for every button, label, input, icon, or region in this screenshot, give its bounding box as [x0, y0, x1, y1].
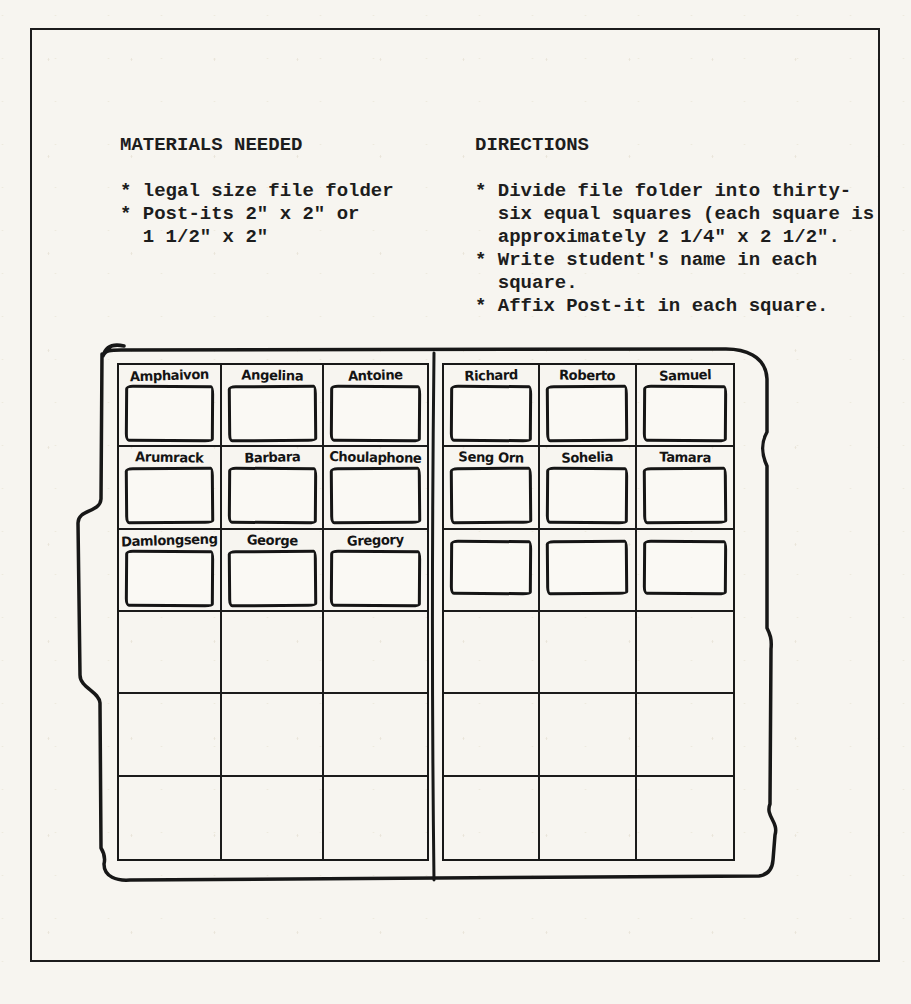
student-name: Seng Orn: [445, 446, 537, 468]
student-name: Sohelia: [541, 446, 633, 469]
grid-cell: [324, 612, 427, 694]
grid-cell: Damlongseng: [119, 530, 222, 612]
folder-right-panel: RichardRobertoSamuelSeng OrnSoheliaTamar…: [442, 363, 735, 861]
student-name: Amphaivon: [120, 364, 218, 387]
grid-cell: Arumrack: [119, 447, 222, 529]
student-name: Arumrack: [120, 446, 218, 468]
grid-cell: Angelina: [222, 365, 325, 447]
grid-cell: [222, 694, 325, 776]
post-it-note: [330, 385, 421, 443]
post-it-note: [125, 467, 214, 525]
grid-cell: [119, 612, 222, 694]
grid-cell: Samuel: [637, 365, 733, 447]
student-name: Antoine: [326, 364, 426, 387]
grid-cell: Antoine: [324, 365, 427, 447]
grid-cell: [324, 694, 427, 776]
post-it-note: [642, 539, 727, 595]
directions-section: DIRECTIONS * Divide file folder into thi…: [475, 134, 874, 318]
student-name: Samuel: [638, 364, 732, 387]
file-folder-illustration: AmphaivonAngelinaAntoineArumrackBarbaraC…: [72, 340, 787, 885]
page-border-frame: MATERIALS NEEDED * legal size file folde…: [30, 28, 880, 962]
grid-cell: [444, 694, 540, 776]
student-name: Gregory: [326, 528, 426, 551]
grid-cell: George: [222, 530, 325, 612]
grid-cell: [540, 612, 636, 694]
grid-cell: Choulaphone: [324, 447, 427, 529]
grid-cell: Richard: [444, 365, 540, 447]
grid-cell: Tamara: [637, 447, 733, 529]
grid-cell: [540, 530, 636, 612]
grid-cell: [637, 777, 733, 859]
grid-cell: [119, 777, 222, 859]
post-it-note: [330, 549, 421, 607]
post-it-note: [125, 549, 214, 607]
grid-cell: Seng Orn: [444, 447, 540, 529]
grid-cell: Roberto: [540, 365, 636, 447]
post-it-note: [450, 539, 533, 595]
student-name: Roberto: [542, 364, 634, 386]
grid-cell: [444, 777, 540, 859]
student-name: Barbara: [223, 446, 321, 469]
post-it-note: [642, 385, 727, 443]
materials-section: MATERIALS NEEDED * legal size file folde…: [120, 134, 394, 249]
grid-cell: [119, 694, 222, 776]
student-name: Damlongseng: [120, 528, 218, 551]
post-it-note: [125, 385, 214, 443]
folder-left-panel: AmphaivonAngelinaAntoineArumrackBarbaraC…: [117, 363, 429, 861]
folder-fold-line: [433, 353, 435, 880]
student-name: Choulaphone: [326, 446, 426, 468]
post-it-note: [546, 385, 629, 443]
post-it-note: [546, 539, 629, 595]
student-name: George: [223, 529, 321, 551]
grid-cell: Gregory: [324, 530, 427, 612]
grid-cell: [444, 530, 540, 612]
post-it-note: [450, 467, 533, 525]
post-it-note: [642, 467, 727, 525]
scanned-document-page: MATERIALS NEEDED * legal size file folde…: [0, 0, 911, 1004]
student-name: Tamara: [638, 446, 732, 468]
post-it-note: [227, 385, 316, 443]
grid-cell: Amphaivon: [119, 365, 222, 447]
grid-cell: [540, 777, 636, 859]
grid-cell: [222, 777, 325, 859]
grid-cell: [637, 612, 733, 694]
post-it-note: [227, 549, 316, 607]
grid-cell: [222, 612, 325, 694]
grid-cell: [637, 530, 733, 612]
post-it-note: [330, 467, 421, 525]
post-it-note: [227, 467, 316, 525]
grid-cell: [324, 777, 427, 859]
grid-cell: Sohelia: [540, 447, 636, 529]
grid-cell: Barbara: [222, 447, 325, 529]
grid-cell: [540, 694, 636, 776]
grid-cell: [637, 694, 733, 776]
grid-cell: [444, 612, 540, 694]
student-name: Richard: [445, 364, 537, 387]
post-it-note: [450, 385, 533, 443]
post-it-note: [546, 467, 629, 525]
student-name: Angelina: [223, 364, 321, 386]
